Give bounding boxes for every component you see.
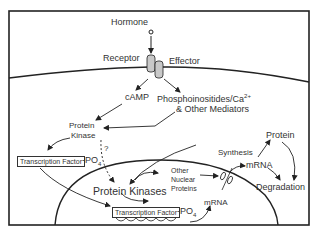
- po4-nuc-label: -PO4: [177, 207, 196, 218]
- other-nuclear-label-3: Proteins: [171, 185, 197, 192]
- degradation-label: Degradation: [256, 183, 305, 192]
- nuclear-pore-icon: [219, 172, 226, 181]
- hormone-icon: [149, 30, 153, 34]
- transcription-factor-cyto-box: Transcription Factor: [17, 156, 85, 167]
- protein-label: Protein: [266, 131, 295, 140]
- protein-kinases-label: Protein Kinases: [93, 186, 167, 197]
- other-nuclear-label-2: Nuclear: [171, 176, 195, 183]
- synthesis-label: Synthesis: [218, 149, 253, 157]
- effector-label: Effector: [169, 57, 200, 66]
- effector-icon: [155, 61, 163, 78]
- mrna-cyto-label: mRNA: [246, 161, 273, 170]
- diagram-canvas: [0, 0, 317, 242]
- protein-kinase-label-1: Protein: [69, 122, 94, 130]
- camp-label: cAMP: [125, 93, 149, 102]
- other-nuclear-label-1: Other: [171, 167, 189, 174]
- transcription-factor-nuc-box: Transcription Factor: [112, 207, 180, 218]
- other-mediators-label: & Other Mediators: [176, 105, 249, 114]
- po4-cyto-label: -PO4: [82, 156, 101, 167]
- hormone-label: Hormone: [111, 18, 148, 27]
- question-label: ?: [104, 145, 108, 153]
- phosphoinositides-label: Phosphoinositides/Ca2+: [157, 93, 251, 104]
- protein-kinase-label-2: Kinase: [71, 132, 95, 140]
- receptor-icon: [147, 55, 155, 72]
- receptor-label: Receptor: [103, 54, 140, 63]
- mrna-nuc-label: mRNA: [204, 199, 228, 207]
